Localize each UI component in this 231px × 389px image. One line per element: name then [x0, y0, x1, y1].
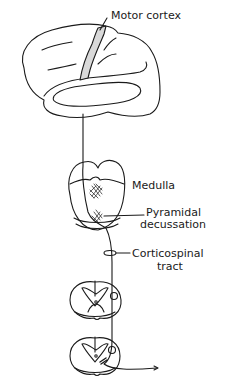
tract-cross-section-marker — [104, 251, 116, 256]
corticospinal-diagram — [0, 0, 231, 389]
spinal-cord-section-lower — [70, 337, 158, 376]
brain-illustration — [22, 24, 160, 118]
label-corticospinal-line1: Corticospinal — [132, 248, 204, 259]
spinal-cord-section-upper — [70, 281, 121, 320]
label-medulla: Medulla — [132, 180, 175, 191]
motor-cortex-region — [80, 26, 106, 80]
medulla-shaded-nucleus — [90, 184, 102, 198]
medulla-illustration — [69, 160, 125, 230]
label-pyramidal-line2: decussation — [140, 219, 206, 230]
label-motor-cortex: Motor cortex — [111, 10, 181, 21]
label-pyramidal-line1: Pyramidal — [146, 207, 201, 218]
corticospinal-fiber — [83, 114, 157, 369]
label-corticospinal-line2: tract — [157, 261, 183, 272]
pyramidal-leader — [104, 215, 144, 216]
